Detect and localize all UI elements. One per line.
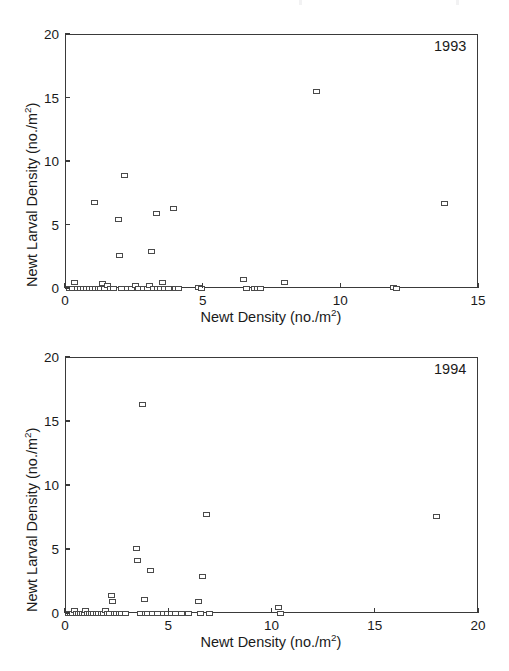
x-tick-mark [168,608,169,613]
x-axis-title-tail: ) [337,309,342,325]
x-tick-label: 5 [164,618,172,633]
data-point [133,546,140,551]
y-axis-title-text: Newt Larval Density (no./m [24,113,40,287]
x-tick-label: 0 [61,618,69,633]
x-tick-mark [374,608,375,613]
data-point [153,211,160,216]
y-tick-mark [65,420,70,421]
data-point [203,512,210,517]
plot-area-1993 [65,34,478,288]
x-tick-label: 0 [61,293,69,308]
data-point [313,89,320,94]
data-point [141,597,148,602]
y-axis-title-1993: Newt Larval Density (no./m2) [24,103,40,287]
y-axis-title-exponent: 2 [22,432,33,437]
data-point [275,605,282,610]
data-point [108,593,115,598]
data-point [441,201,448,206]
data-point [170,206,177,211]
y-axis-title-text: Newt Larval Density (no./m [24,438,40,612]
y-tick-label: 20 [35,350,59,365]
data-point [240,277,247,282]
data-point [433,514,440,519]
data-point [159,280,166,285]
data-point [185,611,192,616]
data-point [121,173,128,178]
y-tick-mark [65,160,70,161]
data-point [115,217,122,222]
x-tick-mark [477,283,478,288]
y-tick-mark [65,612,70,613]
data-point [147,568,154,573]
x-axis-title-tail: ) [337,634,342,650]
data-point [122,611,129,616]
x-tick-mark [271,608,272,613]
x-tick-label: 20 [470,618,485,633]
x-axis-title-text: Newt Density (no./m [201,634,332,650]
data-point [206,611,213,616]
x-tick-label: 10 [264,618,279,633]
data-point [195,599,202,604]
y-tick-mark [65,484,70,485]
data-point [197,611,204,616]
panel-1994: 05101520 05101520 Newt Density (no./m2) … [0,331,509,671]
data-point [71,280,78,285]
y-axis-title-tail: ) [24,428,40,433]
y-tick-mark [65,287,70,288]
y-tick-mark [65,33,70,34]
x-tick-label: 10 [333,293,348,308]
y-tick-mark [65,548,70,549]
x-axis-title-1994: Newt Density (no./m2) [201,634,342,650]
data-point [281,280,288,285]
data-point [393,286,400,291]
x-tick-mark [477,608,478,613]
plot-area-1994 [65,357,478,613]
data-point [148,249,155,254]
data-point [134,558,141,563]
data-point [91,200,98,205]
data-point [277,611,284,616]
x-axis-title-text: Newt Density (no./m [201,309,332,325]
data-point [110,286,117,291]
y-axis-title-1994: Newt Larval Density (no./m2) [24,428,40,612]
x-tick-label: 15 [470,293,485,308]
year-label-1993: 1993 [434,38,466,54]
y-tick-label: 15 [35,414,59,429]
data-point [257,286,264,291]
y-axis-title-exponent: 2 [22,107,33,112]
data-point [109,599,116,604]
scatter-figure: 051015 05101520 Newt Density (no./m2) Ne… [0,0,509,671]
x-tick-label: 15 [367,618,382,633]
data-point [116,253,123,258]
scatter-points-1993 [66,35,477,287]
x-tick-mark [340,283,341,288]
data-point [139,402,146,407]
year-label-1994: 1994 [434,361,466,377]
data-point [178,611,185,616]
scatter-points-1994 [66,358,477,612]
data-point [175,286,182,291]
y-tick-mark [65,356,70,357]
y-axis-title-tail: ) [24,103,40,108]
data-point [243,286,250,291]
y-tick-mark [65,224,70,225]
y-tick-label: 20 [35,27,59,42]
y-tick-mark [65,97,70,98]
panel-1993: 051015 05101520 Newt Density (no./m2) Ne… [0,0,509,340]
x-axis-title-1993: Newt Density (no./m2) [201,309,342,325]
x-tick-label: 5 [199,293,207,308]
data-point [199,574,206,579]
x-tick-mark [202,283,203,288]
